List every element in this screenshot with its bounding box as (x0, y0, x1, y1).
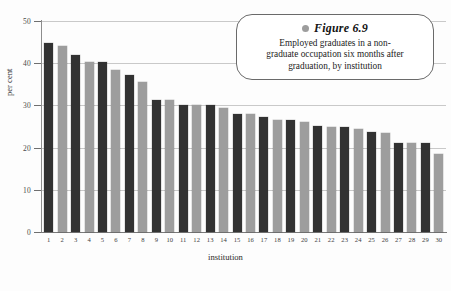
bar[interactable] (219, 108, 228, 232)
bar-slot[interactable] (109, 21, 122, 232)
caption-line: graduation, by institution (245, 61, 425, 72)
y-axis-tick-label: 50 (23, 17, 31, 26)
bar[interactable] (71, 55, 80, 232)
x-axis-tick-label: 5 (96, 236, 109, 243)
x-axis-tick-label: 25 (365, 236, 378, 243)
bar-slot[interactable] (123, 21, 136, 232)
x-axis-tick-label: 23 (338, 236, 351, 243)
x-axis-tick-label: 21 (311, 236, 324, 243)
x-axis-tick-labels: 1234567891011121314151617181920212223242… (42, 236, 446, 243)
x-axis-tick-label: 20 (298, 236, 311, 243)
bar[interactable] (300, 122, 309, 232)
bar[interactable] (165, 100, 174, 232)
x-axis-tick-label: 12 (190, 236, 203, 243)
bar[interactable] (313, 126, 322, 232)
bar[interactable] (421, 143, 430, 232)
y-axis-tick-label: 10 (23, 185, 31, 194)
bar[interactable] (273, 120, 282, 232)
bar[interactable] (394, 143, 403, 232)
bar-slot[interactable] (177, 21, 190, 232)
bar-slot[interactable] (203, 21, 216, 232)
bar-slot[interactable] (163, 21, 176, 232)
bar[interactable] (286, 120, 295, 232)
x-axis-title: institution (0, 252, 451, 262)
x-axis-tick-label: 14 (217, 236, 230, 243)
bar[interactable] (381, 133, 390, 232)
x-axis-tick-label: 6 (109, 236, 122, 243)
x-axis-tick-label: 19 (284, 236, 297, 243)
bar-slot[interactable] (136, 21, 149, 232)
x-axis-tick-label: 26 (378, 236, 391, 243)
y-axis-tick (34, 232, 41, 233)
bar[interactable] (125, 75, 134, 232)
x-axis-tick-label: 9 (150, 236, 163, 243)
x-axis-tick-label: 8 (136, 236, 149, 243)
bar[interactable] (44, 43, 53, 232)
bar[interactable] (152, 100, 161, 232)
x-axis-tick-label: 18 (271, 236, 284, 243)
y-axis-tick-label: 30 (23, 101, 31, 110)
bar[interactable] (233, 114, 242, 232)
y-axis-tick (34, 63, 41, 64)
figure-label: Figure 6.9 (314, 21, 368, 36)
y-axis-tick-label: 20 (23, 143, 31, 152)
y-axis-title: per cent (4, 69, 14, 96)
figure-container: per cent 01020304050 1234567891011121314… (0, 0, 451, 291)
bar[interactable] (179, 105, 188, 232)
bar[interactable] (58, 46, 67, 232)
caption-line: graduate occupation six months after (245, 49, 425, 60)
x-axis-tick-label: 17 (257, 236, 270, 243)
bar-slot[interactable] (55, 21, 68, 232)
x-axis-tick-label: 29 (419, 236, 432, 243)
caption-title-row: Figure 6.9 (245, 21, 425, 36)
bar[interactable] (259, 117, 268, 232)
bar[interactable] (98, 62, 107, 232)
x-axis-tick-label: 24 (351, 236, 364, 243)
bar-slot[interactable] (69, 21, 82, 232)
bar[interactable] (340, 127, 349, 233)
y-axis-tick-label: 40 (23, 59, 31, 68)
x-axis-tick-label: 7 (123, 236, 136, 243)
x-axis-tick-label: 4 (82, 236, 95, 243)
bar[interactable] (85, 62, 94, 232)
bar[interactable] (206, 105, 215, 232)
bar[interactable] (367, 132, 376, 232)
y-axis-tick (34, 148, 41, 149)
bar-slot[interactable] (82, 21, 95, 232)
bar-slot[interactable] (96, 21, 109, 232)
x-axis-tick-label: 1 (42, 236, 55, 243)
y-axis-tick (34, 105, 41, 106)
bar[interactable] (434, 154, 443, 232)
caption-line: Employed graduates in a non- (245, 38, 425, 49)
x-axis-tick-label: 16 (244, 236, 257, 243)
y-axis-tick (34, 21, 41, 22)
x-axis-tick-label: 2 (55, 236, 68, 243)
bar-slot[interactable] (150, 21, 163, 232)
x-axis-tick-label: 30 (432, 236, 445, 243)
bar-slot[interactable] (217, 21, 230, 232)
y-axis-tick-label: 0 (27, 228, 31, 237)
bar[interactable] (111, 70, 120, 232)
x-axis-tick-label: 10 (163, 236, 176, 243)
bar-slot[interactable] (190, 21, 203, 232)
x-axis-tick-label: 28 (405, 236, 418, 243)
bar[interactable] (138, 82, 147, 232)
bar[interactable] (354, 129, 363, 232)
figure-caption-callout: Figure 6.9 Employed graduates in a non- … (236, 14, 434, 80)
x-axis-tick-label: 27 (392, 236, 405, 243)
bar[interactable] (407, 143, 416, 232)
bar[interactable] (192, 105, 201, 232)
x-axis-tick-label: 11 (177, 236, 190, 243)
bar[interactable] (327, 127, 336, 233)
bar-slot[interactable] (42, 21, 55, 232)
x-axis-tick-label: 13 (203, 236, 216, 243)
x-axis-tick-label: 3 (69, 236, 82, 243)
x-axis-tick-label: 15 (230, 236, 243, 243)
x-axis-tick-label: 22 (325, 236, 338, 243)
y-axis-tick (34, 190, 41, 191)
bar-slot[interactable] (432, 21, 445, 232)
bar[interactable] (246, 114, 255, 232)
bullet-dot-icon (302, 25, 309, 32)
x-axis-line (41, 232, 447, 233)
